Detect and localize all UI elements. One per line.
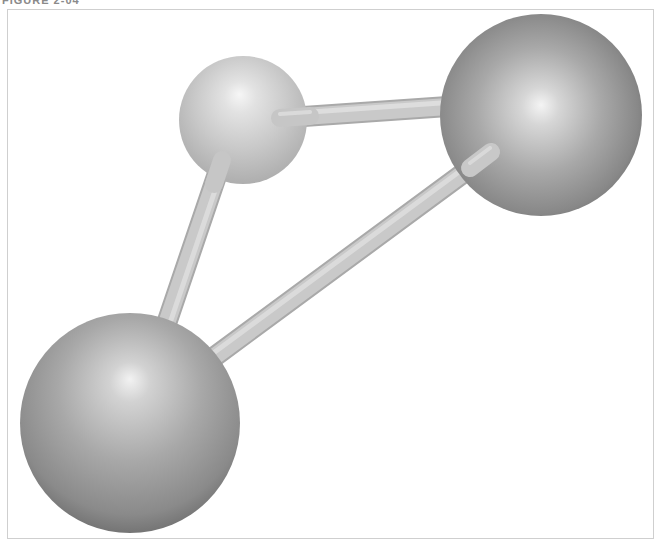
large-atom-top-right-sphere	[440, 14, 642, 216]
large-atom-bottom-left-sphere	[20, 313, 240, 533]
molecule-diagram	[0, 0, 657, 548]
